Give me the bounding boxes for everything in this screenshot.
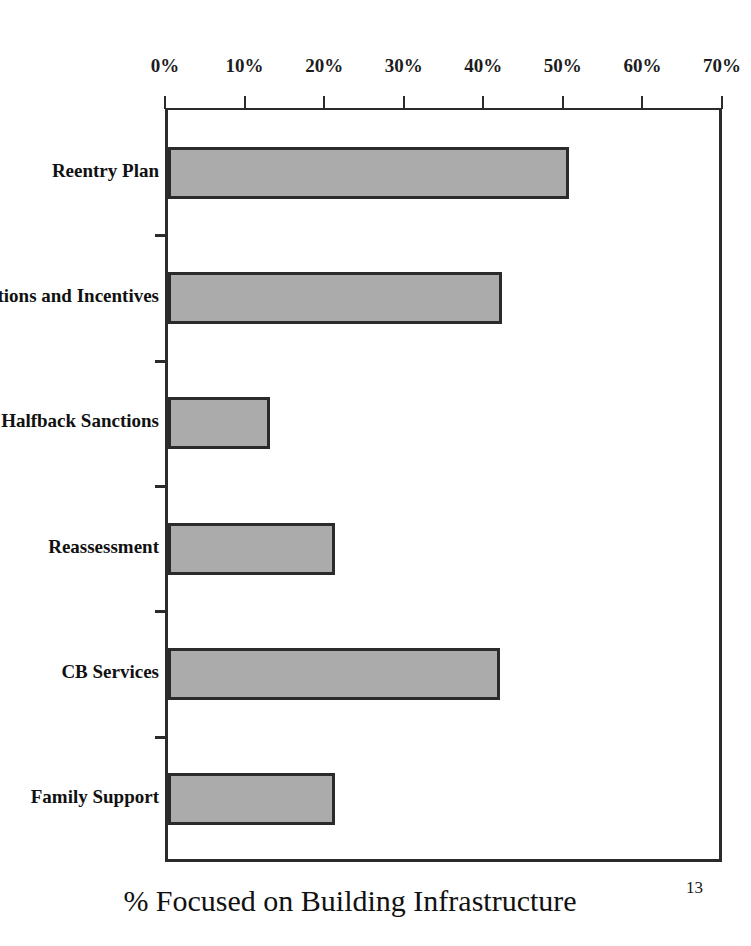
category-label: Halfback Sanctions	[0, 410, 159, 432]
bar	[168, 773, 335, 825]
x-tick-mark	[562, 96, 564, 109]
bar	[168, 648, 500, 700]
x-tick-label: 20%	[284, 55, 364, 77]
bar	[168, 272, 502, 324]
x-tick-label: 40%	[443, 55, 523, 77]
bar-chart: 0%10%20%30%40%50%60%70% Reentry Plananct…	[0, 0, 751, 946]
x-tick-label: 0%	[125, 55, 205, 77]
x-tick-mark	[482, 96, 484, 109]
x-tick-mark	[403, 96, 405, 109]
y-tick-mark	[155, 610, 166, 613]
category-label: anctions and Incentives	[0, 285, 159, 307]
page-number: 13	[686, 878, 703, 898]
y-tick-mark	[155, 485, 166, 488]
bar	[168, 397, 270, 449]
x-tick-mark	[164, 96, 166, 109]
x-tick-label: 50%	[523, 55, 603, 77]
x-tick-mark	[323, 96, 325, 109]
x-tick-mark	[244, 96, 246, 109]
y-tick-mark	[155, 360, 166, 363]
plot-area	[165, 110, 722, 862]
category-label: Family Support	[0, 786, 159, 808]
bar	[168, 147, 569, 199]
x-tick-mark	[641, 96, 643, 109]
category-label: Reassessment	[0, 536, 159, 558]
y-tick-mark	[155, 234, 166, 237]
x-tick-mark	[721, 96, 723, 109]
x-tick-label: 30%	[364, 55, 444, 77]
x-tick-label: 70%	[682, 55, 751, 77]
x-tick-label: 60%	[602, 55, 682, 77]
x-tick-label: 10%	[205, 55, 285, 77]
y-tick-mark	[155, 736, 166, 739]
category-label-text: anctions and Incentives	[0, 285, 159, 306]
category-label: CB Services	[0, 661, 159, 683]
x-axis-title: % Focused on Building Infrastructure	[0, 884, 700, 918]
bar	[168, 523, 335, 575]
category-label: Reentry Plan	[0, 160, 159, 182]
